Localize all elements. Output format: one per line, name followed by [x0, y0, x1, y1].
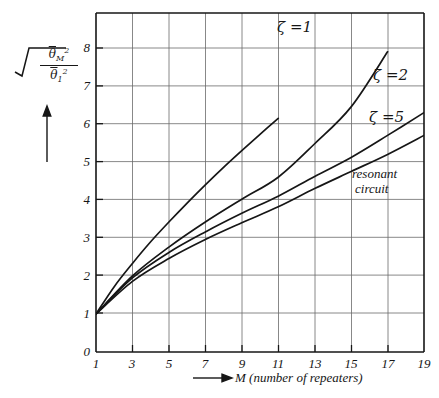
y-tick-label-3: 3 [72, 231, 90, 244]
y-axis-ticks [96, 48, 103, 313]
x-axis-ticks [133, 345, 389, 352]
curve-label-zeta-1: ζ =1 [277, 20, 312, 35]
x-tick-label-15: 15 [340, 357, 362, 370]
fraction-bar [40, 65, 78, 66]
x-tick-label-7: 7 [194, 357, 216, 370]
y-tick-label-2: 2 [72, 269, 90, 282]
curve-4 [96, 135, 424, 314]
curve-label-resonant-circuit-line1: resonant [352, 166, 397, 181]
x-tick-label-11: 11 [267, 357, 289, 370]
x-tick-label-17: 17 [377, 357, 399, 370]
y-tick-label-1: 1 [72, 307, 90, 320]
y-axis-label: θM2 θ12 [14, 44, 80, 106]
curve-label-zeta-2: ζ =2 [373, 68, 408, 83]
x-tick-label-9: 9 [231, 357, 253, 370]
y-tick-label-8: 8 [72, 41, 90, 54]
y-label-arrow [43, 106, 51, 162]
curve-label-resonant-circuit-line2: circuit [355, 181, 388, 196]
curve-3 [96, 113, 424, 314]
x-axis-caption: M (number of repeaters) [235, 371, 363, 384]
x-tick-label-19: 19 [413, 357, 435, 370]
y-tick-label-7: 7 [72, 79, 90, 92]
y-tick-label-6: 6 [72, 117, 90, 130]
y-tick-label-5: 5 [72, 155, 90, 168]
x-tick-label-13: 13 [304, 357, 326, 370]
curve-label-zeta-5: ζ =5 [369, 110, 404, 125]
figure-container: θM2 θ12 0 1 2 3 4 5 6 7 8 1 3 5 7 9 11 1… [0, 0, 439, 398]
x-tick-label-3: 3 [121, 357, 143, 370]
x-tick-label-1: 1 [85, 357, 107, 370]
grid-vertical [133, 13, 389, 352]
x-tick-label-5: 5 [158, 357, 180, 370]
y-tick-label-4: 4 [72, 193, 90, 206]
x-caption-arrow [193, 374, 232, 382]
